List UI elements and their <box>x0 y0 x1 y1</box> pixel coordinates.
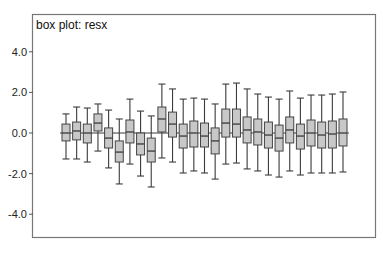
y-tick-label: 2.0 <box>12 86 27 98</box>
y-tick-label: -2.0 <box>8 168 27 180</box>
y-tick-label: 4.0 <box>12 46 27 58</box>
iqr-box <box>147 138 155 162</box>
chart-title: box plot: resx <box>36 18 107 32</box>
iqr-box <box>232 109 240 137</box>
iqr-box <box>201 123 209 147</box>
box-plot-chart: box plot: resx 4.02.00.0-2.0-4.0 <box>0 0 390 254</box>
iqr-box <box>190 121 198 147</box>
y-tick-label: -4.0 <box>8 208 27 220</box>
y-axis: 4.02.00.0-2.0-4.0 <box>8 46 33 220</box>
y-tick-label: 0.0 <box>12 127 27 139</box>
